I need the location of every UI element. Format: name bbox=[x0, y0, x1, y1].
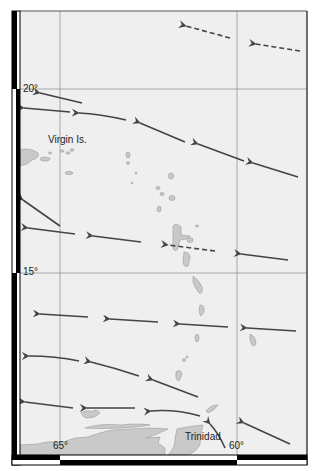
frame-bar-bottom-mid bbox=[60, 460, 237, 465]
place-label-virgin-islands: Virgin Is. bbox=[48, 135, 87, 145]
map-canvas bbox=[0, 0, 319, 471]
longitude-label-60: 60° bbox=[229, 441, 244, 451]
island-st-vincent bbox=[195, 334, 199, 342]
frame-bar-bottom-left bbox=[12, 455, 60, 460]
frame-bar-left-top bbox=[12, 11, 17, 89]
latitude-label-20: 20° bbox=[23, 84, 38, 94]
island-barbuda bbox=[169, 173, 174, 179]
frame-bar-left-mid bbox=[16, 89, 20, 273]
island-virgin-is bbox=[60, 150, 64, 152]
latitude-label-15: 15° bbox=[23, 267, 38, 277]
frame-bar-left-bottom bbox=[12, 273, 17, 465]
island-vieques bbox=[40, 157, 50, 161]
place-label-trinidad: Trinidad bbox=[185, 432, 221, 442]
longitude-label-65: 65° bbox=[53, 441, 68, 451]
frame-bar-bottom-right bbox=[237, 455, 307, 460]
island-antigua bbox=[169, 196, 175, 201]
